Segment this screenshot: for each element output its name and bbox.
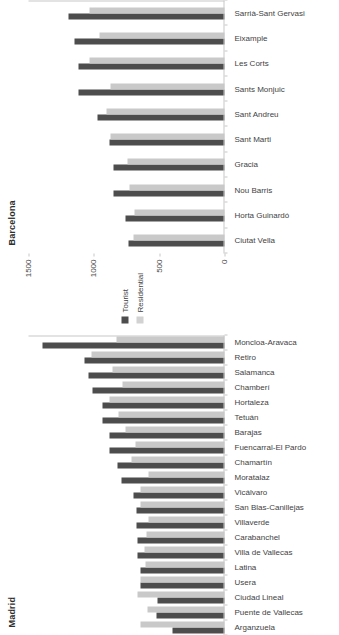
x-tick-mark (224, 514, 227, 515)
legend-label-tourist: Tourist (120, 288, 129, 312)
bar-residential (129, 184, 224, 190)
bar-residential (110, 133, 224, 139)
y-axis-tick-label: 1000 (89, 259, 98, 279)
category-label-cell: Sants Monjuic (232, 76, 336, 101)
bar-residential (147, 607, 224, 613)
bar-group (28, 620, 224, 635)
bar-group (28, 335, 224, 350)
x-tick-mark (224, 24, 227, 25)
y-tick-mark (224, 253, 225, 256)
category-label-cell: Vicálvaro (232, 485, 336, 500)
bar-residential (127, 158, 224, 164)
plot-area-barcelona: 050010001500 (28, 0, 224, 253)
bar-tourist (78, 63, 224, 69)
category-label-cell: Gracia (232, 152, 336, 177)
category-label: San Blas-Canillejas (234, 504, 303, 512)
category-label-cell: Salamanca (232, 365, 336, 380)
x-tick-mark (224, 349, 227, 350)
y-tick-mark (93, 253, 94, 256)
bar-group (28, 228, 224, 253)
category-label-cell: Carabanchel (232, 530, 336, 545)
bar-group (28, 515, 224, 530)
bar-tourist (113, 190, 224, 196)
x-tick-mark (224, 379, 227, 380)
bar-group (28, 425, 224, 440)
legend-item-residential: Residential (135, 261, 144, 323)
x-tick-mark (224, 394, 227, 395)
category-label-cell: Arganzuela (232, 620, 336, 635)
category-label-cell: Fuencarral-El Pardo (232, 440, 336, 455)
category-label: Salamanca (234, 369, 274, 377)
bar-group (28, 0, 224, 25)
category-label: Eixample (234, 34, 267, 42)
bar-group (28, 545, 224, 560)
bar-tourist (128, 240, 224, 246)
legend-item-tourist: Tourist (120, 261, 129, 323)
x-tick-mark (224, 424, 227, 425)
bar-tourist (78, 89, 224, 95)
bar-tourist (136, 508, 224, 514)
bar-tourist (133, 493, 224, 499)
category-label: Horta Guinardó (234, 211, 289, 219)
bar-tourist (68, 13, 224, 19)
x-tick-mark (224, 529, 227, 530)
bar-tourist (92, 388, 224, 394)
bar-residential (122, 382, 224, 388)
x-tick-mark (224, 75, 227, 76)
bar-group (28, 395, 224, 410)
category-label-cell: Les Corts (232, 51, 336, 76)
bar-group (28, 202, 224, 227)
category-label-cell: Moratalaz (232, 470, 336, 485)
figure: Madrid 050010001500 ArganzuelaPuente de … (0, 0, 339, 635)
category-label: Fuencarral-El Pardo (234, 444, 306, 452)
x-tick-mark (224, 151, 227, 152)
x-tick-mark (224, 619, 227, 620)
bar-tourist (125, 215, 224, 221)
bar-residential (131, 457, 224, 463)
bar-tourist (137, 553, 224, 559)
x-tick-mark (224, 559, 227, 560)
category-label: Ciutat Vella (234, 236, 274, 244)
bar-tourist (156, 613, 224, 619)
bar-group (28, 76, 224, 101)
category-label-cell: Villaverde (232, 515, 336, 530)
y-tick-mark (159, 253, 160, 256)
bar-residential (145, 562, 224, 568)
bar-residential (109, 397, 224, 403)
bar-residential (134, 209, 224, 215)
bar-tourist (140, 568, 224, 574)
bar-residential (137, 592, 224, 598)
x-axis-barcelona (223, 0, 224, 253)
category-label: Villa de Vallecas (234, 549, 292, 557)
category-label-cell: Nou Barris (232, 177, 336, 202)
category-label: Vicálvaro (234, 489, 267, 497)
bar-residential (89, 7, 224, 13)
legend: Tourist Residential (120, 261, 150, 323)
residential-swatch-icon (136, 316, 143, 323)
y-axis-tick-label: 500 (154, 259, 163, 279)
bar-tourist (102, 403, 224, 409)
category-label: Sant Andreu (234, 110, 278, 118)
bar-tourist (137, 538, 224, 544)
category-label-cell: Sant Marti (232, 127, 336, 152)
bar-tourist (136, 523, 224, 529)
x-tick-mark (224, 409, 227, 410)
x-tick-mark (224, 100, 227, 101)
category-label: Arganzuela (234, 624, 274, 632)
y-tick-mark (28, 253, 29, 256)
bar-group (28, 455, 224, 470)
category-label-cell: Eixample (232, 25, 336, 50)
category-label-cell: Chamartín (232, 455, 336, 470)
x-tick-mark (224, 574, 227, 575)
chart-title-barcelona: Barcelona (6, 200, 16, 245)
category-label-cell: Sant Andreu (232, 101, 336, 126)
bar-tourist (157, 598, 224, 604)
bar-residential (89, 57, 224, 63)
bar-group (28, 440, 224, 455)
x-tick-mark (224, 201, 227, 202)
bar-tourist (121, 478, 224, 484)
bar-residential (140, 487, 224, 493)
y-axis-barcelona (28, 0, 224, 1)
plot-area-madrid: 050010001500 (28, 335, 224, 635)
bar-group (28, 575, 224, 590)
